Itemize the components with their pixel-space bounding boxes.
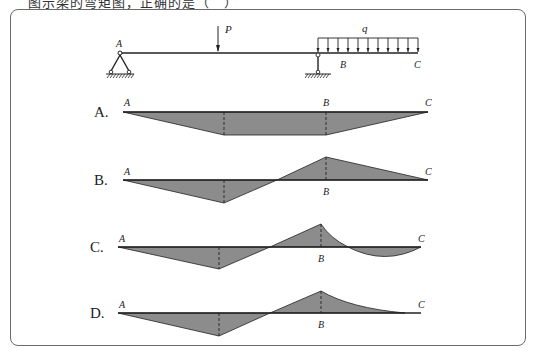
option-c-point-c: C: [418, 233, 425, 244]
option-a-point-c: C: [425, 97, 432, 108]
option-b-point-b: B: [323, 186, 329, 197]
option-b-diagram[interactable]: B. A B C: [94, 157, 432, 203]
option-b-point-a: A: [123, 166, 131, 177]
option-c-label: C.: [90, 239, 104, 255]
option-b-label: B.: [94, 172, 108, 188]
beam-figure: A B C P: [0, 0, 536, 357]
link-support-icon: [305, 53, 331, 78]
option-a-diagram[interactable]: A. A B C: [94, 97, 432, 135]
option-d-point-c: C: [418, 299, 425, 310]
option-c-point-a: A: [118, 233, 126, 244]
option-d-point-a: A: [118, 299, 126, 310]
beam-label-a: A: [115, 38, 123, 49]
beam-label-c: C: [414, 59, 421, 70]
option-d-label: D.: [90, 305, 105, 321]
option-b-point-c: C: [425, 166, 432, 177]
distributed-load-icon: [317, 38, 420, 52]
pin-support-icon: [106, 51, 134, 78]
point-load-label: P: [224, 23, 232, 35]
option-a-point-b: B: [323, 97, 329, 108]
option-d-point-b: B: [318, 319, 324, 330]
beam-diagram: A B C P: [106, 22, 421, 78]
distributed-load-label: q: [362, 22, 368, 34]
beam-label-b: B: [340, 59, 346, 70]
option-d-diagram[interactable]: D. A B C: [90, 291, 425, 336]
option-c-diagram[interactable]: C. A B C: [90, 224, 425, 269]
option-c-point-b: B: [318, 253, 324, 264]
point-load-arrow-icon: [216, 26, 220, 52]
option-a-label: A.: [94, 104, 109, 120]
option-a-point-a: A: [123, 97, 131, 108]
